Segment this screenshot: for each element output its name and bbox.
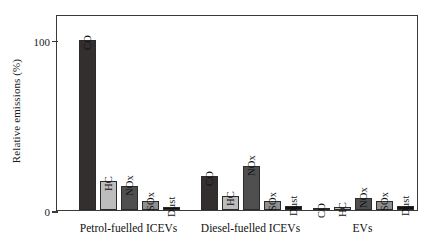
group-label-evs: EVs	[353, 222, 373, 234]
bar-label-co: CO	[204, 171, 215, 186]
plot-area: 0100COHCNOxSOxDustCOHCNOxSOxDustCOHCNOxS…	[56, 15, 418, 211]
bar-label-sox: SOx	[379, 192, 390, 211]
bar-label-dust: Dust	[400, 195, 411, 216]
bar-label-sox: SOx	[145, 192, 156, 211]
bar-label-hc: HC	[337, 202, 348, 217]
bar-label-dust: Dust	[288, 195, 299, 216]
bar-petrol-fuelled-icevs-co	[79, 40, 96, 210]
bar-label-nox: NOx	[124, 175, 135, 196]
bar-label-co: CO	[316, 203, 327, 218]
y-tick-label-0: 0	[45, 206, 51, 218]
y-tick-0	[52, 211, 58, 212]
bar-label-dust: Dust	[166, 197, 177, 218]
bar-label-nox: NOx	[358, 187, 369, 208]
y-tick-label-100: 100	[34, 36, 51, 48]
bar-label-hc: HC	[103, 176, 114, 191]
bar-label-hc: HC	[225, 191, 236, 206]
group-label-petrol-fuelled-icevs: Petrol-fuelled ICEVs	[80, 222, 177, 234]
y-tick-100	[52, 41, 58, 42]
group-label-diesel-fuelled-icevs: Diesel-fuelled ICEVs	[201, 222, 300, 234]
y-axis-title: Relative emissions (%)	[10, 21, 22, 201]
bar-label-co: CO	[82, 35, 93, 50]
bar-label-sox: SOx	[267, 192, 278, 211]
emissions-bar-chart: Relative emissions (%) 0100COHCNOxSOxDus…	[0, 0, 440, 252]
bar-label-nox: NOx	[246, 155, 257, 176]
